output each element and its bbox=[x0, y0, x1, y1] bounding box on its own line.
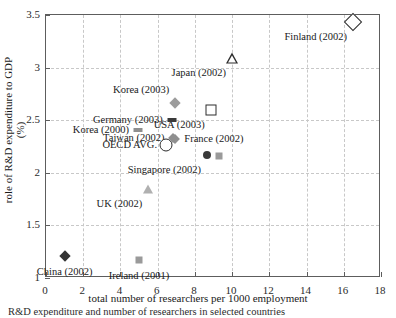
x-axis-tick-label: 10 bbox=[226, 284, 237, 296]
data-point-marker bbox=[226, 53, 238, 64]
x-axis-tick-label: 12 bbox=[263, 284, 274, 296]
x-axis-tick-label: 2 bbox=[79, 284, 85, 296]
x-axis-tick bbox=[269, 272, 270, 277]
y-axis-tick-label: 1 bbox=[10, 271, 40, 283]
y-axis-tick bbox=[45, 173, 50, 174]
x-axis-tick-label: 18 bbox=[375, 284, 386, 296]
gridline-horizontal bbox=[46, 225, 379, 226]
x-axis-tick-label: 16 bbox=[337, 284, 348, 296]
figure-container: Finland (2002)Japan (2002)Korea (2003)US… bbox=[0, 0, 396, 318]
x-axis-tick-label: 6 bbox=[154, 284, 160, 296]
x-axis-tick bbox=[381, 272, 382, 277]
y-axis-tick-label: 3 bbox=[10, 61, 40, 73]
data-point-label: Ireland (2001) bbox=[109, 270, 169, 281]
gridline-vertical bbox=[83, 15, 84, 276]
gridline-vertical bbox=[195, 15, 196, 276]
plot-area: Finland (2002)Japan (2002)Korea (2003)US… bbox=[45, 14, 380, 277]
data-point-marker bbox=[203, 151, 211, 159]
figure-caption: R&D expenditure and number of researcher… bbox=[8, 306, 394, 317]
data-point-marker bbox=[134, 128, 143, 132]
x-axis-tick-label: 8 bbox=[191, 284, 197, 296]
data-point-marker bbox=[59, 250, 70, 261]
x-axis-tick-label: 4 bbox=[117, 284, 123, 296]
gridline-horizontal bbox=[46, 173, 379, 174]
y-axis-tick bbox=[45, 15, 50, 16]
y-axis-tick-label: 1.5 bbox=[10, 218, 40, 230]
x-axis-tick bbox=[232, 272, 233, 277]
y-axis-label: role of R&D expenditure to GDP (%) bbox=[2, 50, 26, 210]
y-axis-tick-label: 3.5 bbox=[10, 8, 40, 20]
data-point-label: UK (2002) bbox=[97, 198, 143, 209]
y-axis-tick-label: 2 bbox=[10, 166, 40, 178]
y-axis-tick bbox=[45, 278, 50, 279]
x-axis-tick-label: 14 bbox=[300, 284, 311, 296]
y-axis-tick bbox=[45, 120, 50, 121]
data-point-label: China (2002) bbox=[37, 266, 93, 277]
data-point-label: Japan (2002) bbox=[172, 67, 227, 78]
gridline-vertical bbox=[307, 15, 308, 276]
x-axis-tick bbox=[307, 272, 308, 277]
data-point-label: Singapore (2002) bbox=[128, 164, 201, 175]
data-point-label: Korea (2003) bbox=[113, 84, 169, 95]
data-point-marker bbox=[136, 257, 143, 264]
data-point-marker bbox=[167, 118, 176, 122]
y-axis-tick bbox=[45, 225, 50, 226]
y-axis-tick-label: 2.5 bbox=[10, 113, 40, 125]
y-axis-tick bbox=[45, 68, 50, 69]
x-axis-tick-label: 0 bbox=[42, 284, 48, 296]
data-point-marker bbox=[205, 104, 216, 115]
x-axis-tick bbox=[344, 272, 345, 277]
data-point-marker bbox=[216, 152, 223, 159]
data-point-label: Finland (2002) bbox=[284, 31, 347, 42]
data-point-marker bbox=[160, 139, 173, 152]
data-point-marker bbox=[143, 184, 153, 193]
data-point-label: OECD AVG. bbox=[102, 139, 157, 150]
gridline-vertical bbox=[269, 15, 270, 276]
gridline-vertical bbox=[344, 15, 345, 276]
x-axis-tick bbox=[195, 272, 196, 277]
data-point-marker bbox=[170, 98, 181, 109]
data-point-marker bbox=[344, 13, 362, 31]
data-point-label: France (2002) bbox=[184, 133, 243, 144]
gridline-vertical bbox=[158, 15, 159, 276]
